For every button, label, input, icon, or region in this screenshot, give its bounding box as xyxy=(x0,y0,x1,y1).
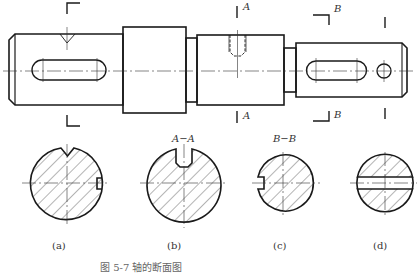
label-A-top: A xyxy=(243,1,250,12)
section-b xyxy=(140,144,226,228)
plane-a-top xyxy=(67,3,80,14)
cutting-plane-marks xyxy=(67,3,385,126)
right-keyway-slot xyxy=(307,61,367,80)
label-B-top: B xyxy=(334,3,341,14)
label-A-bottom: A xyxy=(243,110,250,121)
collar xyxy=(123,27,186,113)
section-c xyxy=(252,152,320,216)
section-b-title: A−A xyxy=(172,133,195,144)
caption-a: (a) xyxy=(52,240,66,251)
shaft-main-view xyxy=(9,27,407,113)
v-notch xyxy=(60,34,75,43)
section-c-title: B−B xyxy=(273,133,296,144)
caption-d: (d) xyxy=(373,240,387,251)
plane-a-bottom xyxy=(67,115,80,126)
middle-section xyxy=(197,35,284,105)
neck-2 xyxy=(284,48,296,92)
neck-1 xyxy=(186,38,197,102)
caption-b: (b) xyxy=(167,240,181,251)
plane-B-top xyxy=(313,15,329,25)
section-a xyxy=(22,144,108,226)
caption-c: (c) xyxy=(273,240,286,251)
plane-B-bottom xyxy=(313,111,329,121)
section-d xyxy=(350,152,417,216)
label-B-bottom: B xyxy=(334,109,341,120)
figure-caption: 图 5-7 轴的断面图 xyxy=(100,259,182,274)
section-a-body xyxy=(30,148,102,220)
